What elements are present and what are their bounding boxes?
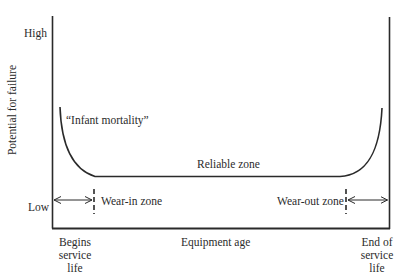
x-axis-label: Equipment age (181, 236, 250, 249)
x-axis-start-label-line-2: service (48, 249, 102, 262)
infant-mortality-label: “Infant mortality” (66, 114, 149, 127)
wear-out-zone-label: Wear-out zone (277, 195, 344, 208)
x-axis-start-label-line-3: life (48, 262, 102, 275)
y-axis-low-label: Low (28, 201, 49, 214)
x-axis-start-label-line-1: Begins (48, 236, 102, 249)
x-axis-start-label: Begins service life (48, 236, 102, 275)
x-axis-end-label-line-3: life (352, 262, 401, 275)
x-axis-end-label-line-1: End of (352, 236, 401, 249)
reliable-zone-label: Reliable zone (197, 158, 260, 171)
wear-in-zone-label: Wear-in zone (101, 195, 162, 208)
y-axis-high-label: High (24, 27, 47, 40)
x-axis-end-label: End of service life (352, 236, 401, 275)
x-axis-end-label-line-2: service (352, 249, 401, 262)
y-axis-label: Potential for failure (6, 65, 18, 155)
